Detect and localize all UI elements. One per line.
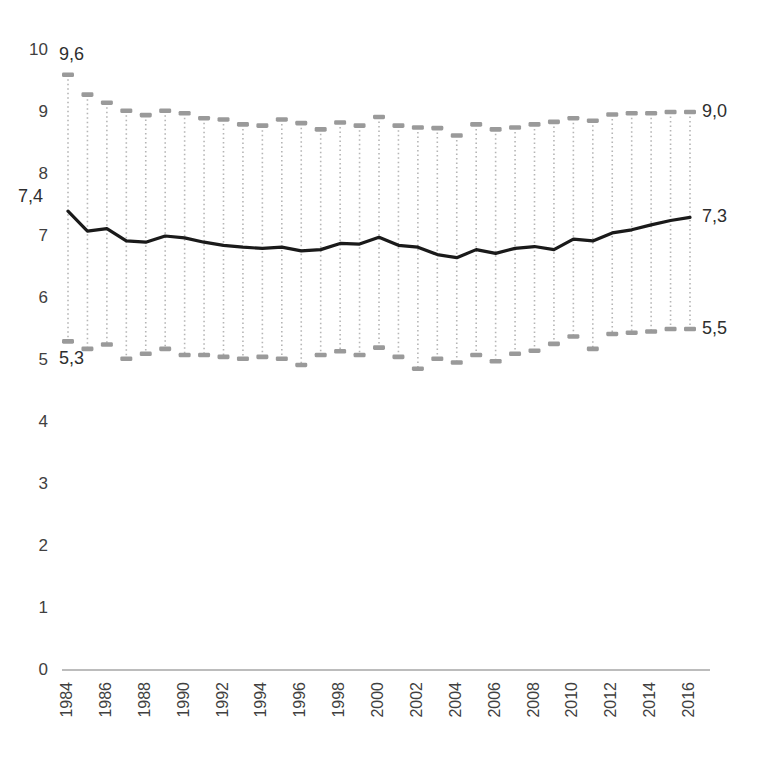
- upper-bound-marker: [373, 115, 385, 120]
- lower-bound-marker: [140, 352, 152, 357]
- x-axis-tick-2002: 2002: [409, 682, 425, 718]
- x-axis-tick-2014: 2014: [642, 682, 658, 718]
- lower-bound-marker: [354, 353, 366, 358]
- upper-bound-marker: [198, 116, 210, 121]
- upper-bound-marker: [159, 108, 171, 113]
- upper-start-label: 9,6: [59, 45, 84, 63]
- upper-bound-marker: [470, 122, 482, 127]
- upper-bound-marker: [315, 127, 327, 132]
- x-axis-tick-1986: 1986: [98, 682, 114, 718]
- y-axis-tick-8: 8: [8, 165, 48, 182]
- lower-bound-marker: [529, 348, 541, 353]
- lower-bound-marker: [509, 352, 521, 357]
- upper-bound-marker: [645, 111, 657, 116]
- upper-bound-marker: [218, 117, 230, 122]
- lower-bound-marker: [567, 334, 579, 339]
- lower-bound-marker: [684, 327, 696, 332]
- upper-bound-marker: [412, 125, 424, 130]
- upper-bound-marker: [587, 118, 599, 123]
- upper-end-label: 9,0: [702, 102, 727, 120]
- lower-bound-marker: [587, 347, 599, 352]
- lower-bound-marker: [315, 353, 327, 358]
- x-axis-tick-1984: 1984: [59, 682, 75, 718]
- lower-bound-marker: [490, 359, 502, 364]
- upper-bound-marker: [276, 117, 288, 122]
- x-axis-tick-1996: 1996: [292, 682, 308, 718]
- y-axis-tick-1: 1: [8, 599, 48, 616]
- x-axis-tick-1990: 1990: [176, 682, 192, 718]
- upper-bound-marker: [490, 127, 502, 132]
- upper-bound-marker: [256, 123, 268, 128]
- lower-bound-marker: [645, 329, 657, 334]
- upper-bound-marker: [548, 120, 560, 125]
- lower-start-label: 5,3: [59, 349, 84, 367]
- lower-bound-marker: [62, 339, 74, 344]
- y-axis-tick-9: 9: [8, 103, 48, 120]
- upper-bound-marker: [295, 121, 307, 126]
- upper-bound-marker: [81, 92, 93, 97]
- x-axis-tick-1994: 1994: [253, 682, 269, 718]
- x-axis-tick-2000: 2000: [370, 682, 386, 718]
- lower-end-label: 5,5: [702, 319, 727, 337]
- lower-bound-marker: [276, 356, 288, 361]
- mean-end-label: 7,3: [702, 207, 727, 225]
- upper-bound-marker: [509, 125, 521, 130]
- upper-bound-marker: [567, 116, 579, 121]
- y-axis-tick-5: 5: [8, 351, 48, 368]
- lower-bound-marker: [412, 366, 424, 371]
- lower-bound-marker: [373, 345, 385, 350]
- upper-bound-marker: [529, 122, 541, 127]
- lower-bound-marker: [626, 330, 638, 335]
- x-axis-tick-2016: 2016: [681, 682, 697, 718]
- upper-bound-marker: [354, 123, 366, 128]
- lower-bound-marker: [101, 342, 113, 347]
- upper-bound-marker: [431, 126, 443, 131]
- x-axis-tick-2006: 2006: [487, 682, 503, 718]
- lower-bound-marker: [665, 327, 677, 332]
- y-axis-tick-0: 0: [8, 661, 48, 678]
- upper-bound-marker: [684, 110, 696, 115]
- lower-bound-marker: [431, 356, 443, 361]
- y-axis-tick-3: 3: [8, 475, 48, 492]
- x-axis-tick-1988: 1988: [137, 682, 153, 718]
- upper-bound-marker: [120, 108, 132, 113]
- upper-bound-marker: [606, 112, 618, 117]
- lower-bound-marker: [120, 356, 132, 361]
- upper-bound-marker: [62, 73, 74, 78]
- lower-bound-marker: [159, 347, 171, 352]
- y-axis-tick-7: 7: [8, 227, 48, 244]
- x-axis-tick-2010: 2010: [564, 682, 580, 718]
- lower-bound-marker: [295, 363, 307, 368]
- x-axis-tick-1992: 1992: [215, 682, 231, 718]
- lower-bound-marker: [237, 356, 249, 361]
- lower-bound-marker: [218, 355, 230, 360]
- upper-bound-marker: [392, 123, 404, 128]
- lower-bound-marker: [256, 355, 268, 360]
- lower-bound-marker: [606, 332, 618, 337]
- upper-bound-marker: [626, 111, 638, 116]
- y-axis-tick-10: 10: [8, 41, 48, 58]
- x-axis-tick-2012: 2012: [603, 682, 619, 718]
- lower-bound-marker: [548, 342, 560, 347]
- upper-bound-marker: [101, 100, 113, 105]
- y-axis-tick-2: 2: [8, 537, 48, 554]
- lower-bound-marker: [451, 360, 463, 365]
- lower-bound-marker: [334, 349, 346, 354]
- upper-bound-marker: [179, 111, 191, 116]
- y-axis-tick-4: 4: [8, 413, 48, 430]
- x-axis-tick-1998: 1998: [331, 682, 347, 718]
- upper-bound-marker: [237, 122, 249, 127]
- y-axis-tick-6: 6: [8, 289, 48, 306]
- upper-bound-marker: [451, 133, 463, 138]
- lower-bound-marker: [198, 353, 210, 358]
- lower-bound-marker: [392, 355, 404, 360]
- upper-bound-marker: [665, 110, 677, 115]
- upper-bound-marker: [334, 120, 346, 125]
- mean-start-label: 7,4: [18, 187, 43, 205]
- lower-bound-marker: [470, 353, 482, 358]
- x-axis-tick-2004: 2004: [448, 682, 464, 718]
- x-axis-tick-2008: 2008: [526, 682, 542, 718]
- chart-canvas: [0, 0, 762, 761]
- range-line-chart: 109876543210 198419861988199019921994199…: [0, 0, 762, 761]
- upper-bound-marker: [140, 113, 152, 118]
